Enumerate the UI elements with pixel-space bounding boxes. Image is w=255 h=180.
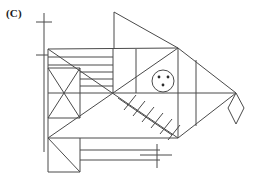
lower-jaw-box (48, 138, 80, 172)
eye-dot (158, 76, 161, 79)
eye-dot (167, 76, 170, 79)
fish-body (48, 48, 236, 138)
figure-container: (C) (0, 0, 255, 180)
dorsal-fin (114, 12, 178, 49)
top-left-axis-tick (36, 13, 52, 152)
eye-dot (162, 84, 165, 87)
eye (152, 70, 174, 92)
fish-line-drawing (0, 0, 255, 180)
bottom-center-tick (140, 144, 172, 168)
